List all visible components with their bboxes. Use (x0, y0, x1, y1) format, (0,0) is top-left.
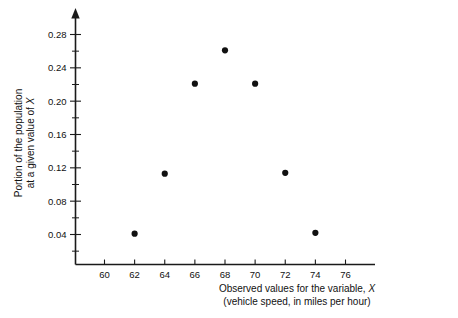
x-tick-label: 60 (99, 269, 110, 280)
y-tick-label: 0.12 (48, 162, 67, 173)
y-tick-label: 0.28 (48, 29, 67, 40)
x-tick-label: 70 (250, 269, 261, 280)
x-tick-label: 62 (129, 269, 140, 280)
y-tick-label: 0.24 (48, 62, 67, 73)
x-tick-label: 66 (190, 269, 201, 280)
x-tick-label: 76 (340, 269, 351, 280)
y-tick-label: 0.20 (48, 96, 67, 107)
data-point (192, 81, 198, 87)
y-axis-title-line1: Portion of the population (13, 89, 24, 197)
scatter-chart: 0.040.080.120.160.200.240.28 60626466687… (0, 0, 458, 318)
plot-area: 0.040.080.120.160.200.240.28 60626466687… (0, 0, 458, 318)
x-axis-title: Observed values for the variable, X (veh… (219, 283, 376, 307)
data-point-group (132, 47, 319, 237)
y-axis-title: Portion of the population at a given val… (13, 89, 36, 197)
x-tick-label: 72 (280, 269, 291, 280)
y-tick-label: 0.08 (48, 196, 67, 207)
y-tick-label-group: 0.040.080.120.160.200.240.28 (48, 29, 67, 240)
x-tick-label: 64 (159, 269, 170, 280)
y-tick-label: 0.16 (48, 129, 67, 140)
x-tick-label-group: 606264666870727476 (99, 269, 351, 280)
y-axis-group (71, 8, 79, 265)
x-axis-title-line1: Observed values for the variable, X (219, 283, 376, 294)
data-point (162, 171, 168, 177)
data-point (282, 170, 288, 176)
data-point (222, 47, 228, 53)
y-tick-label: 0.04 (48, 229, 67, 240)
data-point (132, 231, 138, 237)
data-point (252, 81, 258, 87)
y-axis-title-line2: at a given value of X (25, 97, 36, 188)
x-tick-label: 68 (220, 269, 231, 280)
x-axis-title-line2: (vehicle speed, in miles per hour) (223, 296, 370, 307)
y-axis-arrow-icon (71, 8, 79, 19)
x-tick-label: 74 (310, 269, 321, 280)
data-point (312, 230, 318, 236)
